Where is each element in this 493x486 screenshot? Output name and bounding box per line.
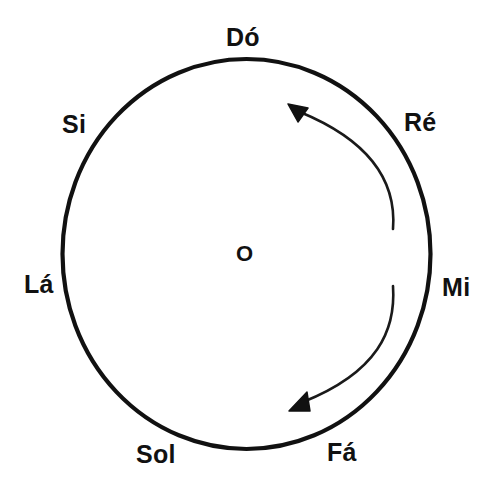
note-label-mi: Mi — [442, 275, 470, 300]
diagram-canvas: Dó Ré Mi Fá Sol Lá Si O — [0, 0, 493, 486]
center-point-label: O — [236, 243, 253, 265]
lower-arc-path — [303, 286, 393, 402]
note-label-do: Dó — [226, 25, 260, 50]
note-label-la: Lá — [24, 272, 54, 297]
note-label-fa: Fá — [327, 440, 357, 465]
upper-arc-arrow — [288, 104, 393, 229]
note-label-si: Si — [62, 112, 86, 137]
note-label-re: Ré — [404, 110, 437, 135]
upper-arrow-head — [288, 104, 308, 122]
lower-arrow-head — [289, 392, 310, 411]
note-label-sol: Sol — [136, 442, 176, 467]
upper-arc-path — [300, 112, 393, 229]
